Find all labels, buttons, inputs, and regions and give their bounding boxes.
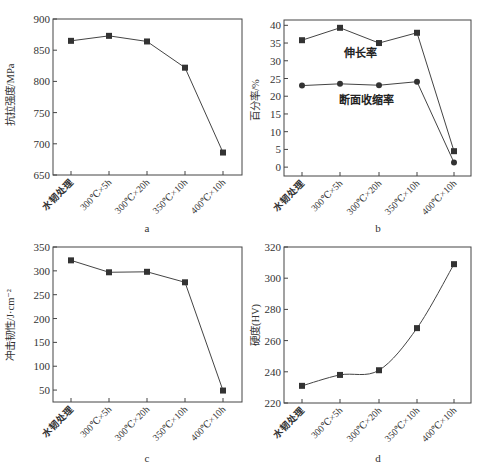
y-axis-label: 硬度(HV) — [249, 303, 262, 346]
x-tick-label: 400℃×10h — [420, 405, 459, 444]
x-tick-label: 水韧处理 — [39, 177, 75, 213]
y-tick-label: 40 — [270, 19, 282, 31]
data-point-square — [106, 33, 112, 39]
y-axis-label: 冲击韧性/J·cm⁻² — [4, 289, 16, 361]
data-point-circle — [451, 160, 457, 166]
y-tick-label: 650 — [34, 169, 51, 181]
x-tick-label: 300℃×20h — [345, 405, 384, 444]
data-point-square — [68, 38, 74, 44]
subfigure-label: a — [145, 222, 150, 234]
y-tick-label: 10 — [270, 126, 282, 138]
series-line — [302, 28, 454, 151]
x-tick-label: 300℃×5h — [78, 177, 113, 212]
y-axis-label: 抗拉强度/MPa — [4, 63, 16, 126]
x-tick-label: 300℃×20h — [113, 177, 152, 216]
chart-c: 50100150200250300350水韧处理300℃×5h300℃×20h3… — [4, 241, 242, 464]
subfigure-label: b — [375, 222, 381, 234]
data-point-circle — [376, 82, 382, 88]
y-tick-label: 300 — [265, 272, 282, 284]
x-tick-label: 350℃×10h — [151, 177, 190, 216]
x-tick-label: 300℃×5h — [309, 405, 344, 440]
x-tick-label: 350℃×10h — [151, 404, 190, 443]
y-tick-label: 350 — [34, 241, 51, 253]
data-point-square — [451, 261, 457, 267]
data-point-square — [144, 269, 150, 275]
x-tick-label: 350℃×10h — [383, 405, 422, 444]
data-point-square — [337, 25, 343, 31]
y-tick-label: 260 — [265, 335, 282, 347]
y-tick-label: 750 — [34, 107, 51, 119]
y-tick-label: 15 — [270, 108, 282, 120]
data-point-circle — [337, 81, 343, 87]
chart-d: 220240260280300320水韧处理300℃×5h300℃×20h350… — [249, 241, 471, 464]
y-tick-label: 20 — [270, 90, 282, 102]
x-tick-label: 300℃×20h — [113, 404, 152, 443]
y-tick-label: 5 — [276, 143, 282, 155]
data-point-circle — [299, 83, 305, 89]
y-tick-label: 240 — [265, 366, 282, 378]
data-point-square — [182, 279, 188, 285]
x-tick-label: 400℃×10h — [189, 404, 228, 443]
chart-a: 650700750800850900水韧处理300℃×5h300℃×20h350… — [4, 13, 242, 234]
x-tick-label: 水韧处理 — [270, 405, 306, 441]
data-point-square — [220, 150, 226, 156]
data-point-square — [220, 388, 226, 394]
x-tick-label: 400℃×10h — [189, 177, 228, 216]
y-tick-label: 800 — [34, 75, 51, 87]
data-point-square — [414, 30, 420, 36]
chart-b: 0510152025303540水韧处理300℃×5h300℃×20h350℃×… — [249, 19, 471, 234]
x-tick-label: 水韧处理 — [39, 404, 75, 440]
data-point-square — [68, 257, 74, 263]
subfigure-label: d — [375, 452, 381, 464]
annotation-reduction-of-area: 断面收缩率 — [339, 93, 394, 106]
y-tick-label: 250 — [34, 289, 51, 301]
y-tick-label: 35 — [270, 37, 282, 49]
y-tick-label: 300 — [34, 265, 51, 277]
y-tick-label: 700 — [34, 138, 51, 150]
series-line — [71, 36, 223, 153]
y-tick-label: 0 — [276, 161, 282, 173]
data-point-square — [414, 325, 420, 331]
y-tick-label: 150 — [34, 336, 51, 348]
y-tick-label: 100 — [34, 360, 51, 372]
y-axis-label: 百分率/% — [249, 79, 261, 121]
x-tick-label: 350℃×10h — [383, 178, 422, 217]
data-point-square — [299, 37, 305, 43]
data-point-square — [144, 38, 150, 44]
x-tick-label: 300℃×5h — [78, 404, 113, 439]
y-tick-label: 320 — [265, 241, 282, 253]
y-tick-label: 220 — [265, 397, 282, 409]
y-tick-label: 200 — [34, 313, 51, 325]
x-tick-label: 300℃×20h — [345, 178, 384, 217]
data-point-square — [337, 372, 343, 378]
y-tick-label: 280 — [265, 303, 282, 315]
data-point-square — [376, 40, 382, 46]
x-tick-label: 300℃×5h — [309, 178, 344, 213]
y-tick-label: 50 — [39, 384, 51, 396]
data-point-square — [106, 269, 112, 275]
data-point-circle — [414, 79, 420, 85]
y-tick-label: 30 — [270, 55, 282, 67]
x-tick-label: 400℃×10h — [420, 178, 459, 217]
data-point-square — [451, 148, 457, 154]
figure-canvas: 650700750800850900水韧处理300℃×5h300℃×20h350… — [0, 0, 488, 473]
x-tick-label: 水韧处理 — [270, 178, 306, 214]
annotation-elongation: 伸长率 — [343, 46, 377, 59]
subfigure-label: c — [145, 452, 150, 464]
data-point-square — [299, 383, 305, 389]
data-point-square — [376, 367, 382, 373]
data-point-square — [182, 65, 188, 71]
y-tick-label: 25 — [270, 73, 282, 85]
plot-frame — [284, 247, 471, 403]
series-line — [71, 260, 223, 390]
y-tick-label: 900 — [34, 13, 51, 25]
y-tick-label: 850 — [34, 44, 51, 56]
